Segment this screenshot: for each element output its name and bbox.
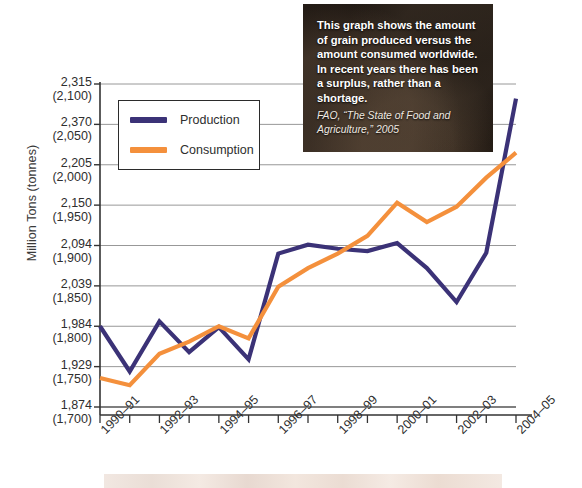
photo-strip [104,474,502,488]
series-line-consumption [100,153,516,386]
y-tick-label: 2,315(2,100) [20,75,92,103]
legend-item-production: Production [130,113,240,127]
legend-item-consumption: Consumption [130,143,254,157]
y-tick-label: 2,370(2,050) [20,115,92,143]
y-tick-label: 1,984(1,800) [20,317,92,345]
y-tick-label: 2,205(2,000) [20,156,92,184]
y-tick-label: 2,094(1,900) [20,237,92,265]
legend: Production Consumption [118,100,260,170]
y-tick-label: 1,929(1,750) [20,358,92,386]
legend-label-consumption: Consumption [180,143,254,157]
legend-label-production: Production [180,113,240,127]
y-tick-label: 2,150(1,950) [20,196,92,224]
chart-figure: This graph shows the amount of grain pro… [0,0,582,488]
caption-box: This graph shows the amount of grain pro… [303,4,493,152]
legend-swatch-consumption [130,147,167,153]
legend-swatch-production [130,117,167,123]
caption-body: This graph shows the amount of grain pro… [317,18,481,106]
caption-source: FAO, “The State of Food and Agriculture,… [317,109,481,138]
y-tick-label: 1,874(1,700) [20,398,92,426]
y-tick-label: 2,039(1,850) [20,277,92,305]
